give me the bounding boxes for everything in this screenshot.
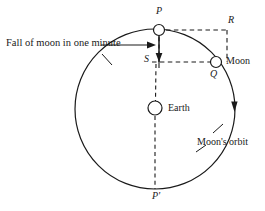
earth-marker-circle	[148, 101, 162, 115]
point-label-p-prime: P'	[152, 191, 160, 201]
fall-of-moon-caption: Fall of moon in one minute	[6, 38, 121, 49]
point-label-r: R	[228, 15, 234, 25]
caption-leader-arrow-head	[147, 42, 156, 49]
orbit-label-leader-upper	[213, 124, 223, 133]
diagram-canvas	[0, 0, 265, 211]
moon-marker-at-p	[154, 25, 165, 36]
moon-marker-at-q	[211, 57, 222, 68]
dashed-segment-s-to-earth	[156, 64, 157, 101]
moons-orbit-label: Moon's orbit	[197, 137, 248, 147]
earth-label: Earth	[168, 103, 190, 113]
caption-tail-stroke	[102, 54, 112, 65]
point-label-q: Q	[210, 69, 217, 79]
orbit-direction-arrow-head	[231, 102, 237, 113]
point-label-p: P	[156, 6, 162, 16]
moon-fall-orbit-figure: Fall of moon in one minute P R S Q Moon …	[0, 0, 265, 211]
point-label-s: S	[144, 54, 149, 64]
moon-label: Moon	[226, 56, 250, 66]
